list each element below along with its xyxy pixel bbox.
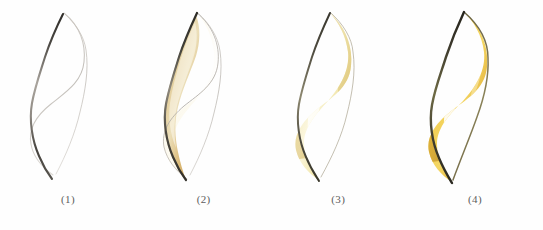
core-highlight (308, 30, 336, 159)
panel-label-2: (2) (197, 194, 211, 205)
panel-stage-4: (4) (407, 0, 537, 230)
panel-stage-3: (3) (273, 0, 403, 230)
inner-rim-shading (289, 15, 329, 160)
outline-outer-right (56, 13, 87, 174)
figure-root: (1) (0, 0, 543, 230)
artwork-stage-1 (6, 0, 136, 192)
panel-label-3: (3) (331, 194, 345, 205)
panel-stage-1: (1) (6, 0, 136, 230)
artwork-stage-3 (273, 0, 403, 192)
panel-label-1: (1) (61, 194, 75, 205)
outline-outer-left (30, 13, 84, 175)
inner-edge-shadow (415, 16, 462, 164)
outline-outer-right (321, 13, 354, 177)
panel-label-4: (4) (468, 194, 482, 205)
contour-central-curve (31, 14, 63, 179)
panel-row: (1) (0, 0, 543, 230)
artwork-stage-4 (407, 0, 537, 192)
secondary-sheen (467, 34, 482, 109)
outer-edge-shadow (452, 10, 499, 186)
artwork-stage-2 (140, 0, 270, 192)
panel-stage-2: (2) (140, 0, 270, 230)
